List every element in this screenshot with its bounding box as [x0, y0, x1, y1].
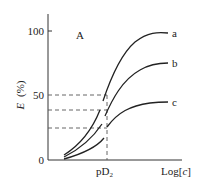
svg-text:E (%): E (%): [14, 80, 27, 110]
curve-label-c: c: [172, 96, 177, 108]
ytick-label-100: 100: [28, 25, 45, 37]
panel-label: A: [76, 29, 84, 41]
ylabel-symbol: E: [14, 102, 26, 110]
ylabel-unit: (%): [14, 80, 27, 97]
pd2-subscript: 2: [109, 171, 113, 179]
y-axis-label: E (%): [14, 80, 27, 110]
dose-response-chart: 100 50 0 E (%) A a b c pD2 Log[c]: [0, 0, 210, 190]
reference-lines: [48, 95, 107, 160]
curve-label-b: b: [172, 57, 178, 69]
ytick-label-0: 0: [39, 154, 45, 166]
curves: [64, 33, 168, 159]
pd2-label: pD2: [96, 165, 113, 179]
ytick-label-50: 50: [33, 89, 45, 101]
curve-label-a: a: [172, 27, 177, 39]
x-axis-label: Log[c]: [161, 165, 191, 177]
curve-c: [64, 102, 168, 159]
pd2-main: pD: [96, 165, 110, 177]
